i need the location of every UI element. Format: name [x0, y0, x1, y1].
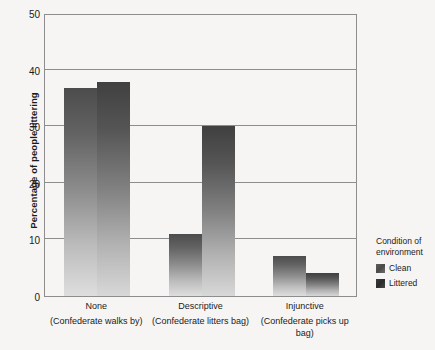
x-label-main: Injunctive — [253, 300, 357, 313]
bar-injunctive-clean — [273, 256, 306, 296]
legend-label: Littered — [389, 278, 417, 288]
y-tick-label-10: 10 — [4, 235, 40, 246]
plot-area — [44, 14, 357, 297]
legend-item-littered[interactable]: Littered — [376, 278, 435, 288]
legend-label: Clean — [389, 263, 411, 273]
y-axis-tick-labels: 01020304050 — [0, 14, 40, 297]
y-tick-label-20: 20 — [4, 178, 40, 189]
legend-swatch-littered-icon — [376, 279, 385, 288]
y-tick-label-0: 0 — [4, 292, 40, 303]
x-label-sub: (Confederate walks by) — [44, 315, 148, 328]
y-tick-label-50: 50 — [4, 9, 40, 20]
x-label-sub: (Confederate picks up bag) — [253, 315, 357, 340]
bar-descriptive-littered — [202, 126, 235, 296]
x-label-sub: (Confederate litters bag) — [148, 315, 252, 328]
gridline-40 — [45, 69, 356, 70]
x-axis-category-labels: None(Confederate walks by)Descriptive(Co… — [44, 300, 357, 348]
x-label-main: Descriptive — [148, 300, 252, 313]
bar-descriptive-clean — [169, 234, 202, 296]
y-tick-label-30: 30 — [4, 122, 40, 133]
bar-none-littered — [97, 82, 130, 296]
x-label-none: None(Confederate walks by) — [44, 300, 148, 327]
x-label-injunctive: Injunctive(Confederate picks up bag) — [253, 300, 357, 340]
x-label-main: None — [44, 300, 148, 313]
legend-swatch-clean-icon — [376, 264, 385, 273]
bar-none-clean — [64, 88, 97, 296]
legend-title-line-1: Condition of — [376, 236, 421, 246]
bar-injunctive-littered — [306, 273, 339, 296]
grouped-bar-chart: Percentage of people littering 010203040… — [0, 0, 435, 350]
y-tick-label-40: 40 — [4, 65, 40, 76]
legend-title-line-2: environment — [376, 247, 423, 257]
legend-item-clean[interactable]: Clean — [376, 263, 435, 273]
legend-items: CleanLittered — [376, 263, 435, 288]
legend-title: Condition of environment — [376, 236, 434, 258]
x-label-descriptive: Descriptive(Confederate litters bag) — [148, 300, 252, 327]
legend: Condition of environment CleanLittered — [376, 236, 435, 293]
